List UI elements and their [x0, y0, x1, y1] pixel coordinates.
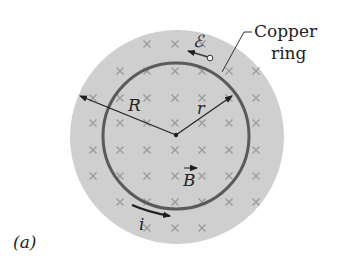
- panel-label: (a): [13, 232, 36, 252]
- ring-label-line2: ring: [271, 43, 307, 63]
- field-B-label: B: [182, 170, 196, 190]
- emf-terminal: [207, 55, 213, 61]
- induced-emf-diagram: ℰ Copper ring R r B i (a): [0, 0, 359, 268]
- radius-R-label: R: [127, 95, 141, 115]
- ring-label-line1: Copper: [254, 21, 318, 41]
- center-point: [174, 133, 178, 137]
- current-i-label: i: [139, 214, 144, 234]
- radius-r-label: r: [197, 99, 206, 118]
